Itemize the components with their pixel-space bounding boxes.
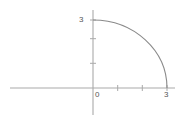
origin-label: 0 [95, 90, 99, 99]
x-axis-label-3: 3 [164, 90, 168, 99]
quarter-circle-arc [93, 20, 167, 88]
coordinate-plot: 3 0 3 [0, 0, 185, 123]
y-axis-label-3: 3 [79, 15, 83, 24]
plot-canvas [0, 0, 185, 123]
